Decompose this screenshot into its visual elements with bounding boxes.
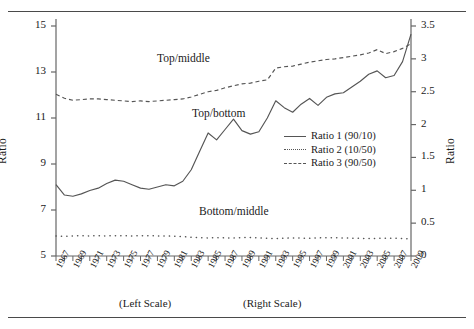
right-axis-tick-label: 1.5	[421, 149, 451, 161]
legend-label-ratio-2: Ratio 2 (10/50)	[311, 143, 376, 157]
left-axis-tick-label: 9	[20, 156, 46, 168]
chart-plot-area	[0, 0, 474, 329]
series-line-dotted	[56, 236, 411, 239]
series-line-dashed	[56, 44, 411, 102]
right-axis-tick-label: 2.5	[421, 84, 451, 96]
legend-item-ratio-2: Ratio 2 (10/50)	[284, 143, 376, 157]
left-axis-tick-label: 11	[20, 110, 46, 122]
right-axis-tick-label: 1	[421, 182, 451, 194]
legend-swatch-dotted-icon	[284, 144, 306, 154]
right-axis-tick-label: 3	[421, 51, 451, 63]
annotation-top-middle: Top/middle	[157, 52, 210, 64]
chart-legend: Ratio 1 (90/10) Ratio 2 (10/50) Ratio 3 …	[284, 129, 376, 170]
legend-swatch-dashed-icon	[284, 158, 306, 168]
legend-item-ratio-1: Ratio 1 (90/10)	[284, 129, 376, 143]
left-axis-tick-label: 13	[20, 64, 46, 76]
figure-container: Ratio Ratio Top/middle Top/bottom Bottom…	[0, 0, 474, 329]
legend-label-ratio-3: Ratio 3 (90/50)	[311, 156, 376, 170]
right-axis-tick-label: 3.5	[421, 18, 451, 30]
right-axis-tick-label: 0.5	[421, 215, 451, 227]
legend-swatch-solid-icon	[284, 131, 306, 141]
legend-label-ratio-1: Ratio 1 (90/10)	[311, 129, 376, 143]
y-axis-label-left: Ratio	[0, 138, 8, 164]
right-axis-tick-label: 2	[421, 117, 451, 129]
legend-item-ratio-3: Ratio 3 (90/50)	[284, 156, 376, 170]
caption-right-scale: (Right Scale)	[243, 297, 301, 309]
left-axis-tick-label: 7	[20, 202, 46, 214]
caption-left-scale: (Left Scale)	[119, 297, 171, 309]
left-axis-tick-label: 5	[20, 248, 46, 260]
left-axis-tick-label: 15	[20, 18, 46, 30]
annotation-bottom-middle: Bottom/middle	[199, 205, 269, 217]
annotation-top-bottom: Top/bottom	[192, 107, 246, 119]
